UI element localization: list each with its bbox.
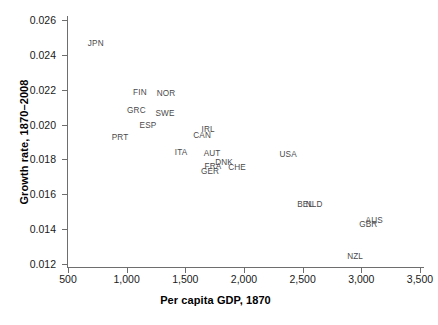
- data-point-label-che: CHE: [228, 163, 246, 172]
- data-point-label-aut: AUT: [204, 148, 221, 157]
- data-point-label-usa: USA: [279, 150, 296, 159]
- data-point-label-ita: ITA: [175, 147, 188, 156]
- data-point-label-prt: PRT: [112, 132, 129, 141]
- x-axis-tick-label: 3,500: [390, 274, 438, 285]
- y-axis-tick-label: 0.024: [10, 50, 56, 61]
- data-point-label-grc: GRC: [127, 106, 146, 115]
- y-axis-tick-label: 0.018: [10, 154, 56, 165]
- y-axis-tick-label: 0.026: [10, 15, 56, 26]
- y-axis-tick-label: 0.022: [10, 85, 56, 96]
- x-axis-tick-label: 3,000: [331, 274, 391, 285]
- data-point-label-nld: NLD: [306, 200, 323, 209]
- x-axis-tick-label: 1,000: [97, 274, 157, 285]
- data-point-label-can: CAN: [193, 131, 211, 140]
- y-axis-tick-label: 0.020: [10, 120, 56, 131]
- data-point-label-nor: NOR: [157, 89, 176, 98]
- data-point-label-swe: SWE: [155, 108, 174, 117]
- x-axis-tick-label: 500: [38, 274, 98, 285]
- y-axis-tick-label: 0.016: [10, 189, 56, 200]
- data-point-label-jpn: JPN: [88, 39, 104, 48]
- x-axis-title: Per capita GDP, 1870: [0, 294, 431, 306]
- data-point-label-ger: GER: [201, 167, 219, 176]
- data-point-group: JPNFINNORGRCSWEESPPRTIRLCANITAAUTDNKFRAC…: [68, 20, 420, 264]
- y-axis-title: Growth rate, 1870–2008: [18, 42, 30, 242]
- x-axis-tick-label: 1,500: [155, 274, 215, 285]
- y-axis-tick: [62, 264, 68, 265]
- data-point-label-esp: ESP: [140, 120, 157, 129]
- y-axis-tick-label: 0.012: [10, 259, 56, 270]
- data-point-label-fin: FIN: [133, 87, 147, 96]
- y-axis-tick-label: 0.014: [10, 224, 56, 235]
- x-axis-tick-label: 2,000: [214, 274, 274, 285]
- x-axis-tick-label: 2,500: [273, 274, 333, 285]
- x-axis-line: [67, 267, 424, 268]
- data-point-label-gbr: GBR: [359, 220, 377, 229]
- data-point-label-nzl: NZL: [347, 252, 363, 261]
